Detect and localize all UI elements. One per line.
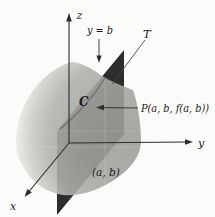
surface-point-label: P(a, b, f(a, b)) xyxy=(140,102,209,114)
z-axis-label: z xyxy=(76,9,83,22)
x-axis-label: x xyxy=(10,200,17,213)
figure-container: z y x y = b T C P(a, b, f(a, b)) (a, b) xyxy=(0,0,215,217)
y-axis-arrowhead-icon xyxy=(185,139,193,145)
trace-curve-label: C xyxy=(79,95,89,109)
figure-canvas: z y x y = b T C P(a, b, f(a, b)) (a, b) xyxy=(0,0,215,217)
plane-label-arrowhead-icon xyxy=(96,56,101,64)
domain-point-label: (a, b) xyxy=(92,166,120,179)
cutting-plane-label: y = b xyxy=(86,24,113,37)
tangent-line-label: T xyxy=(143,27,152,41)
y-axis-label: y xyxy=(197,137,205,150)
z-axis-arrowhead-icon xyxy=(66,13,72,22)
plane-label-arrow xyxy=(96,39,101,63)
